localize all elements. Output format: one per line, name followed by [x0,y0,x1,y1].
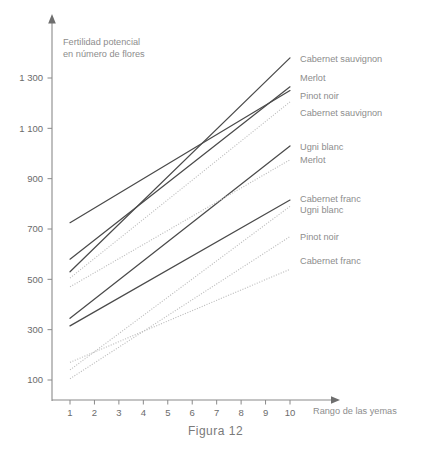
y-tick-label: 300 [27,324,43,335]
x-tick-label: 8 [238,407,243,418]
y-axis-ticks: 1003005007009001 1001 300 [19,72,52,385]
y-tick-label: 1 300 [19,72,43,83]
series-label-2: Pinot noir [300,91,339,101]
x-axis-title: Rango de las yemas [313,406,397,416]
series-line-5 [70,160,290,287]
series-line-2 [70,91,290,223]
x-tick-label: 6 [190,407,195,418]
series-line-9 [70,269,290,362]
series-line-7 [70,206,290,370]
x-tick-label: 5 [165,407,170,418]
y-axis-arrow-icon [48,14,56,24]
series-label-1: Merlot [300,73,326,83]
y-tick-label: 700 [27,223,43,234]
series-label-8: Pinot noir [300,232,339,242]
y-tick-label: 100 [27,374,43,385]
x-axis-ticks: 12345678910 [67,400,295,418]
series-label-9: Cabernet franc [300,256,361,266]
series-label-5: Merlot [300,155,326,165]
series-line-6 [70,200,290,326]
x-tick-label: 1 [67,407,72,418]
series-line-0 [70,58,290,272]
x-tick-label: 7 [214,407,219,418]
x-tick-label: 3 [116,407,121,418]
figure-caption: Figura 12 [0,424,431,438]
series-label-3: Cabernet sauvignon [300,108,382,118]
x-tick-label: 4 [141,407,146,418]
y-axis-title-line1: Fertilidad potencial [63,37,140,47]
x-tick-label: 10 [285,407,296,418]
series-label-4: Ugni blanc [300,142,344,152]
series-label-0: Cabernet sauvignon [300,54,382,64]
series-label-7: Ugni blanc [300,205,344,215]
x-tick-label: 2 [92,407,97,418]
y-tick-label: 1 100 [19,123,43,134]
series-labels-group: Cabernet sauvignonMerlotPinot noirCabern… [300,54,382,265]
x-tick-label: 9 [263,407,268,418]
series-line-3 [70,102,290,278]
series-line-1 [70,87,290,259]
figure-container: 1003005007009001 1001 300 12345678910 Ca… [0,0,431,452]
line-chart: 1003005007009001 1001 300 12345678910 Ca… [0,0,431,452]
y-axis-title-line2: en número de flores [63,49,145,59]
y-tick-label: 500 [27,274,43,285]
series-lines-group [70,58,290,379]
y-tick-label: 900 [27,173,43,184]
x-axis-arrow-icon [331,396,340,403]
series-label-6: Cabernet franc [300,194,361,204]
series-line-4 [70,146,290,318]
